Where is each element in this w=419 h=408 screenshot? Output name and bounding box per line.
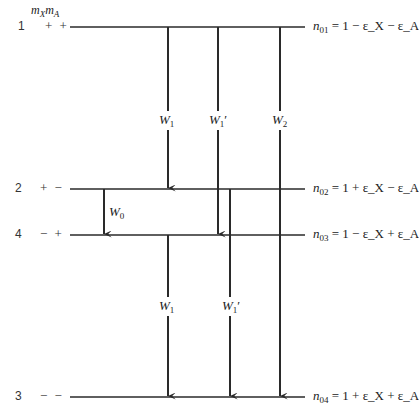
transition-label-w2: W2 — [272, 111, 287, 130]
population-eq-3: n03 = 1 − ε_X + ε_A — [313, 226, 419, 243]
level-signs-2: + − — [40, 180, 64, 196]
column-header: mXmA — [31, 3, 59, 19]
transition-label-w1prime-lower: W1′ — [222, 297, 240, 316]
level-number-3: 3 — [15, 389, 22, 403]
level-signs-1: + + — [45, 18, 69, 34]
population-eq-2: n02 = 1 + ε_X − ε_A — [313, 180, 419, 197]
level-signs-4: − + — [40, 226, 64, 242]
level-number-1: 1 — [18, 19, 25, 33]
transition-label-w1-lower: W1 — [159, 297, 174, 316]
level-number-2: 2 — [15, 181, 22, 195]
population-eq-1: n01 = 1 − ε_X − ε_A — [313, 18, 419, 35]
level-signs-3: − − — [40, 388, 64, 404]
transition-label-w1-upper: W1 — [159, 111, 174, 130]
population-eq-4: n04 = 1 + ε_X + ε_A — [313, 388, 419, 405]
level-number-4: 4 — [15, 227, 22, 241]
transition-label-w0: W0 — [109, 203, 124, 222]
transition-label-w1prime-upper: W1′ — [209, 111, 227, 130]
